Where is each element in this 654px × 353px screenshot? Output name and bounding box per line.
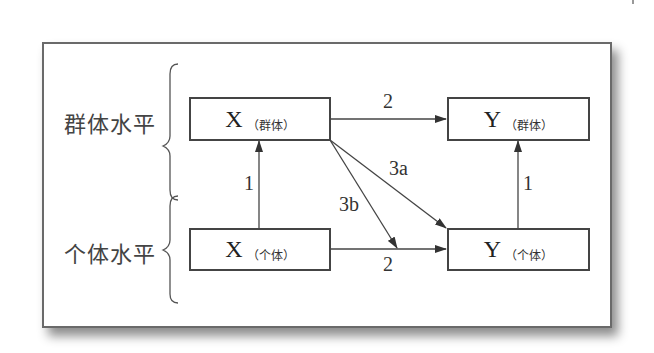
brace-individual-level [163, 196, 178, 303]
y-group-sub: （群体） [505, 116, 553, 133]
label-3a: 3a [389, 157, 408, 180]
label-3b: 3b [339, 193, 359, 216]
brace-group-level [163, 64, 178, 200]
group-level-label: 群体水平 [64, 106, 156, 138]
x-group-sub: （群体） [247, 116, 295, 133]
x-indiv-var: X [225, 236, 242, 263]
x-group-box: X （群体） [189, 97, 331, 141]
label-indiv-2: 2 [383, 253, 393, 276]
y-indiv-sub: （个体） [505, 246, 553, 263]
y-group-box: Y （群体） [447, 97, 590, 141]
x-indiv-box: X （个体） [189, 228, 331, 271]
y-indiv-box: Y （个体） [447, 228, 590, 271]
x-group-var: X [225, 106, 242, 133]
y-group-var: Y [484, 106, 501, 133]
label-group-2: 2 [383, 90, 393, 113]
y-indiv-var: Y [484, 236, 501, 263]
label-x-1: 1 [244, 172, 254, 195]
x-indiv-sub: （个体） [247, 246, 295, 263]
label-y-1: 1 [523, 172, 533, 195]
individual-level-label: 个体水平 [64, 236, 156, 268]
diagram-connectors [0, 0, 654, 353]
